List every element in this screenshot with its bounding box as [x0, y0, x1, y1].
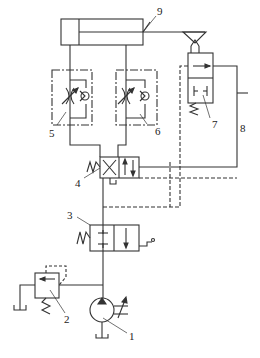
label-9: 9 [157, 6, 163, 17]
pilot-line [139, 66, 248, 167]
label-3: 3 [67, 210, 73, 221]
manual-directional-valve [77, 225, 155, 251]
roller-cam-icon [183, 32, 206, 53]
line-b [118, 140, 126, 157]
one-way-throttle-valve-left [52, 45, 92, 140]
label-7: 7 [212, 119, 218, 130]
label-4: 4 [75, 178, 81, 189]
dashed-pilot-lines [103, 66, 237, 207]
two-position-four-way-valve [87, 157, 139, 184]
roller-operated-pilot-valve [188, 53, 213, 115]
relief-valve [14, 266, 103, 314]
label-1: 1 [129, 331, 135, 342]
label-8: 8 [240, 123, 246, 134]
line-a [70, 140, 100, 157]
hydraulic-circuit-diagram [0, 0, 260, 358]
label-6: 6 [155, 126, 161, 137]
label-2: 2 [64, 314, 70, 325]
variable-pump [90, 297, 128, 338]
label-5: 5 [49, 128, 55, 139]
one-way-throttle-valve-right [116, 45, 157, 140]
